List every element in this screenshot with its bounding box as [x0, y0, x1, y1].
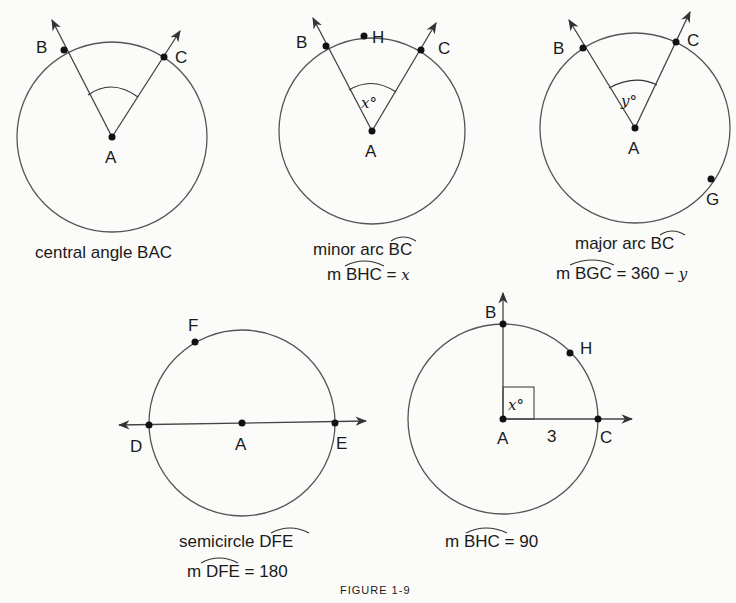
- angle-mark: [88, 87, 138, 97]
- label-a: A: [365, 142, 377, 161]
- label-c: C: [600, 428, 612, 447]
- panel-central-angle: A B C central angle BAC: [17, 20, 207, 262]
- panel-major-arc: y° A B C G major arc BC m BGC = 360 − y: [540, 12, 730, 283]
- point-e: [332, 420, 339, 427]
- label-b: B: [36, 38, 47, 57]
- figure-title: FIGURE 1-9: [340, 584, 411, 596]
- label-b: B: [296, 33, 307, 52]
- label-e: E: [336, 434, 347, 453]
- ray-ac: [112, 31, 180, 137]
- label-c: C: [175, 48, 187, 67]
- arc-name: BC: [651, 234, 675, 253]
- angle-mark: [349, 83, 396, 92]
- angle-label: y°: [620, 92, 637, 110]
- caption-line1: semicircle DFE: [179, 532, 293, 551]
- caption-line2: m BHC = x: [327, 265, 410, 284]
- panel-quarter-arc: x° A B H C 3 m BHC = 90: [408, 293, 632, 551]
- label-d: D: [130, 437, 142, 456]
- caption: central angle BAC: [35, 243, 172, 262]
- angle-mark: [609, 80, 657, 88]
- label-b: B: [485, 303, 496, 322]
- caption-line2: m DFE = 180: [187, 562, 288, 581]
- label-a: A: [628, 139, 640, 158]
- point-b: [580, 45, 587, 52]
- label-c: C: [687, 31, 699, 50]
- point-h: [361, 33, 368, 40]
- point-c: [418, 47, 425, 54]
- radius-label: 3: [547, 427, 556, 446]
- caption-line2: m BGC = 360 − y: [556, 264, 688, 283]
- arc-name: DFE: [259, 532, 293, 551]
- point-d: [146, 422, 153, 429]
- label-f: F: [188, 316, 198, 335]
- caption-line1: minor arc BC: [313, 240, 412, 259]
- point-a: [500, 416, 507, 423]
- point-b: [500, 321, 507, 328]
- point-b: [61, 47, 68, 54]
- point-a: [239, 420, 246, 427]
- panel-semicircle: A D E F semicircle DFE m DFE = 180: [119, 316, 366, 581]
- label-h: H: [580, 339, 592, 358]
- arc-name: BC: [389, 240, 413, 259]
- angle-label: x°: [361, 94, 377, 112]
- point-b: [323, 43, 330, 50]
- point-f: [192, 339, 199, 346]
- point-c: [161, 54, 168, 61]
- angle-label: x°: [508, 396, 524, 414]
- point-c: [673, 39, 680, 46]
- caption-line1: m BHC = 90: [445, 532, 538, 551]
- ray-ab: [569, 20, 635, 128]
- label-a: A: [497, 429, 509, 448]
- label-g: G: [706, 190, 719, 209]
- point-a: [109, 134, 116, 141]
- ray-ab: [52, 20, 112, 137]
- point-a: [369, 128, 376, 135]
- point-a: [632, 125, 639, 132]
- point-c: [595, 416, 602, 423]
- label-a: A: [235, 435, 247, 454]
- label-c: C: [438, 39, 450, 58]
- point-h: [567, 350, 574, 357]
- caption-line1: major arc BC: [575, 234, 674, 253]
- point-g: [708, 176, 715, 183]
- label-b: B: [553, 39, 564, 58]
- label-h: H: [372, 28, 384, 47]
- ray-ac: [635, 12, 690, 128]
- figure-canvas: A B C central angle BAC x° A B H C minor…: [0, 0, 736, 603]
- label-a: A: [105, 148, 117, 167]
- panel-minor-arc: x° A B H C minor arc BC m BHC = x: [279, 18, 465, 284]
